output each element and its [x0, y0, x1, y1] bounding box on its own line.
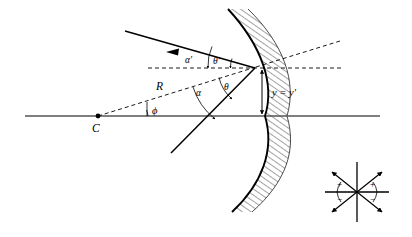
- inset-label-minus-left: −: [337, 194, 342, 204]
- angle-arc-alpha-prime: [208, 47, 212, 69]
- label-phi: ϕ: [152, 105, 158, 116]
- inset-label-plus-right: +: [370, 179, 375, 189]
- mirror-hatching: [200, 0, 340, 237]
- label-theta: θ: [224, 82, 229, 92]
- label-alpha: α: [196, 88, 202, 98]
- angle-arc-theta-prime: [230, 59, 232, 69]
- label-center-of-curvature: C: [92, 122, 100, 134]
- inset-label-minus-right: −: [370, 194, 375, 204]
- diagram-canvas: C R ϕ α′ θ′ α θ y = y′ + + − −: [0, 0, 412, 237]
- inset-label-plus-left: +: [337, 179, 342, 189]
- label-alpha-prime: α′: [185, 55, 193, 65]
- optics-figure: C R ϕ α′ θ′ α θ y = y′ + + − −: [0, 0, 412, 237]
- label-height-equality: y = y′: [271, 87, 297, 98]
- reflected-ray-arrowhead: [166, 48, 179, 55]
- label-theta-prime: θ′: [213, 56, 221, 66]
- label-radius: R: [155, 80, 163, 92]
- center-of-curvature-point: [96, 114, 101, 119]
- sign-convention-key: + + − −: [325, 162, 389, 222]
